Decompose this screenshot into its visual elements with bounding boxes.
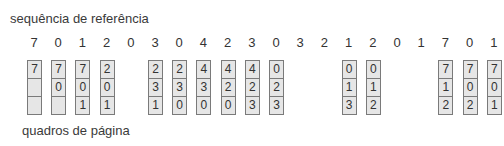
page-frames-label: quadros de página (22, 123, 130, 138)
frame-column: 201 (100, 60, 113, 115)
frame-cell: 7 (51, 60, 66, 79)
reference-item: 0 (51, 35, 65, 50)
frame-cell (27, 78, 42, 97)
frame-cell: 2 (366, 96, 381, 115)
frame-cell: 3 (342, 96, 357, 115)
reference-item: 0 (124, 35, 138, 50)
frame-cell: 1 (438, 78, 453, 97)
frame-cell: 2 (269, 78, 284, 97)
reference-item: 0 (390, 35, 404, 50)
frame-column: 702 (463, 60, 476, 115)
frame-cell: 7 (438, 60, 453, 79)
frame-cell: 0 (463, 78, 478, 97)
reference-item: 1 (75, 35, 89, 50)
frame-column: 712 (438, 60, 451, 115)
reference-item: 1 (414, 35, 428, 50)
frame-cell: 4 (196, 60, 211, 79)
frame-cell: 0 (342, 60, 357, 79)
frame-cell: 1 (100, 96, 115, 115)
reference-string-label: sequência de referência (10, 11, 149, 26)
reference-item: 3 (293, 35, 307, 50)
frame-cell: 7 (463, 60, 478, 79)
frame-column: 430 (196, 60, 209, 115)
frame-cell: 3 (148, 78, 163, 97)
reference-item: 7 (438, 35, 452, 50)
frame-column: 023 (269, 60, 282, 115)
frame-column: 012 (366, 60, 379, 115)
frame-cell: 0 (366, 60, 381, 79)
frame-cell: 4 (221, 60, 236, 79)
frame-column: 423 (245, 60, 258, 115)
frame-cell: 3 (196, 78, 211, 97)
frame-column: 420 (221, 60, 234, 115)
frame-column: 701 (487, 60, 500, 115)
frame-cell: 1 (487, 96, 502, 115)
frame-cell: 1 (342, 78, 357, 97)
frame-cell: 0 (75, 78, 90, 97)
frame-cell: 0 (172, 96, 187, 115)
frame-cell (27, 96, 42, 115)
reference-item: 2 (317, 35, 331, 50)
frame-cell: 7 (487, 60, 502, 79)
reference-item: 3 (148, 35, 162, 50)
reference-item: 1 (342, 35, 356, 50)
reference-item: 0 (269, 35, 283, 50)
frame-cell: 7 (75, 60, 90, 79)
frame-cell: 0 (100, 78, 115, 97)
reference-item: 0 (463, 35, 477, 50)
frame-cell: 0 (196, 96, 211, 115)
frame-cell: 0 (487, 78, 502, 97)
frame-cell: 3 (172, 78, 187, 97)
frame-cell: 2 (100, 60, 115, 79)
frame-column: 70 (51, 60, 64, 115)
frame-cell: 2 (463, 96, 478, 115)
frame-cell: 2 (245, 78, 260, 97)
frame-cell: 2 (221, 78, 236, 97)
frame-cell: 4 (245, 60, 260, 79)
frame-cell (51, 96, 66, 115)
frame-cell: 2 (148, 60, 163, 79)
reference-item: 3 (245, 35, 259, 50)
frame-column: 013 (342, 60, 355, 115)
frame-cell: 2 (438, 96, 453, 115)
frame-cell: 1 (366, 78, 381, 97)
frame-cell: 3 (269, 96, 284, 115)
reference-item: 0 (172, 35, 186, 50)
frame-cell: 3 (245, 96, 260, 115)
reference-item: 1 (487, 35, 501, 50)
frame-cell: 0 (221, 96, 236, 115)
reference-item: 2 (221, 35, 235, 50)
frame-cell: 1 (148, 96, 163, 115)
reference-item: 2 (366, 35, 380, 50)
frame-cell: 1 (75, 96, 90, 115)
frame-cell: 0 (269, 60, 284, 79)
frame-cell: 0 (51, 78, 66, 97)
reference-item: 4 (196, 35, 210, 50)
frame-cell: 7 (27, 60, 42, 79)
frame-cell: 2 (172, 60, 187, 79)
frame-column: 7 (27, 60, 40, 115)
frame-column: 231 (148, 60, 161, 115)
reference-item: 2 (100, 35, 114, 50)
reference-item: 7 (27, 35, 41, 50)
frame-column: 230 (172, 60, 185, 115)
frame-column: 701 (75, 60, 88, 115)
